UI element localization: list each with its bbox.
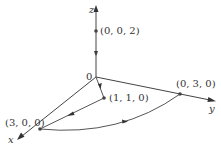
x-axis-arrow-icon [17,133,25,141]
y-axis-label: y [208,103,215,114]
point-label: (3, 0, 0) [5,117,45,128]
z-axis: z [88,4,99,77]
direction-arrow-icon [122,120,128,124]
point-1-1-0: (1, 1, 0) [102,92,149,103]
z-axis-tick [95,52,98,55]
coordinate-diagram: z y x 0 (0, 0, 2) (0, 3, 0 [0,0,221,146]
point-3-0-0: (3, 0, 0) [5,117,45,131]
path-origin-to-p110 [96,77,104,98]
point-0-3-0: (0, 3, 0) [176,78,216,96]
z-axis-label: z [88,4,95,15]
point-label: (0, 3, 0) [176,78,216,89]
y-axis-arrow-icon [207,97,216,102]
point-label: (1, 1, 0) [109,92,149,103]
origin-label: 0 [86,71,92,82]
point-0-0-2: (0, 0, 2) [94,25,140,36]
x-axis-label: x [8,134,14,145]
point-label: (0, 0, 2) [100,25,140,36]
x-axis: x [8,77,96,145]
